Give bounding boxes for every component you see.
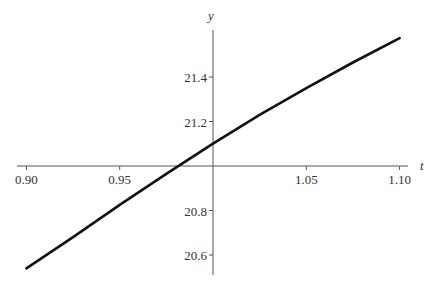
y-tick-label: 20.8	[184, 204, 207, 219]
x-tick-label: 0.95	[108, 172, 131, 187]
y-tick-label: 20.6	[184, 248, 207, 263]
x-tick-label: 1.10	[388, 172, 411, 187]
y-axis-label: y	[206, 8, 214, 23]
x-tick-label: 1.05	[295, 172, 318, 187]
y-tick-label: 21.4	[184, 70, 207, 85]
line-chart: 0.900.951.051.1021.421.220.820.6 t y	[0, 0, 434, 287]
x-axis-label: t	[420, 158, 424, 173]
axes	[17, 30, 408, 275]
y-tick-label: 21.2	[184, 115, 207, 130]
x-tick-label: 0.90	[15, 172, 38, 187]
